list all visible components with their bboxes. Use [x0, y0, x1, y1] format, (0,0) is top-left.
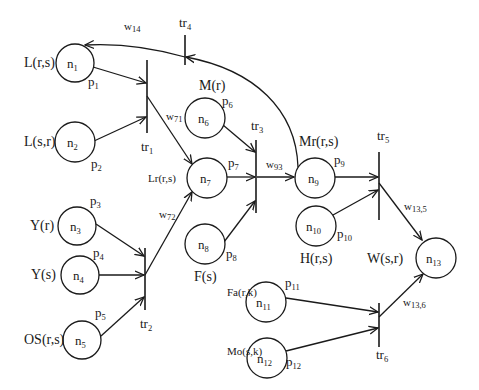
node-label-n8: F(s) — [194, 269, 217, 285]
arc-tr4-n1 — [85, 45, 185, 58]
place-label: p6 — [222, 93, 233, 110]
weight-label-w93: w93 — [266, 158, 282, 172]
node-label-n2: L(s,r) — [24, 134, 56, 150]
node-label-n3: Y(r) — [30, 218, 54, 234]
node-label-n4: Y(s) — [31, 267, 56, 283]
place-label: p2 — [91, 156, 102, 173]
arc-n11-tr6 — [286, 298, 378, 312]
transition-label-tr3: tr3 — [251, 118, 263, 135]
place-label: p5 — [95, 305, 106, 322]
weight-label-w13-6: w13,6 — [403, 296, 426, 310]
place-label: p11 — [285, 275, 300, 292]
node-label-n12: Mo(s,k) — [227, 345, 262, 358]
place-label: p4 — [93, 245, 105, 262]
node-label-n11: Fa(r,k) — [227, 286, 257, 299]
transition-label-tr2: tr2 — [140, 316, 152, 333]
petri-net-diagram: n1 n2 n3 n4 n5 n6 n7 n8 n9 n10 n11 n12 n… — [0, 0, 479, 390]
place-label: p10 — [337, 226, 352, 243]
node-label-n10: H(r,s) — [300, 251, 333, 267]
node-label-n9: Mr(r,s) — [299, 134, 339, 150]
node-label-n6: M(r) — [199, 78, 226, 94]
weight-label-w71: w71 — [166, 110, 182, 124]
arc-tr1-n7 — [147, 96, 192, 164]
place-label: p8 — [226, 246, 237, 263]
arc-n12-tr6 — [286, 328, 378, 351]
arc-tr2-n7 — [145, 192, 192, 275]
place-label: p12 — [286, 354, 301, 371]
node-label-n5: OS(r,s) — [24, 332, 65, 348]
transition-label-tr4: tr4 — [179, 15, 192, 32]
place-label: p3 — [90, 193, 101, 210]
transition-label-tr1: tr1 — [141, 139, 153, 156]
arc-n8-tr3 — [224, 201, 255, 242]
place-label: p9 — [334, 152, 345, 169]
arc-n10-tr5 — [333, 190, 378, 215]
weight-label-w14: w14 — [124, 20, 141, 34]
weight-label-w72: w72 — [159, 208, 175, 222]
place-label: p1 — [88, 74, 99, 91]
weight-label-w13-5: w13,5 — [404, 200, 427, 214]
transition-label-tr5: tr5 — [377, 128, 389, 145]
node-label-n1: L(r,s) — [24, 55, 55, 71]
arc-n1-tr1 — [93, 67, 146, 83]
node-label-n7: Lr(r,s) — [148, 172, 176, 185]
arc-n2-tr1 — [94, 117, 146, 141]
arc-tr6-n13 — [379, 274, 423, 317]
transition-label-tr6: tr6 — [376, 347, 388, 364]
node-ids: n1 n2 n3 n4 n5 n6 n7 n8 n9 n10 n11 n12 n… — [67, 56, 441, 368]
node-label-n13: W(s,r) — [367, 251, 403, 267]
arc-n5-tr2 — [101, 297, 144, 336]
weight-labels: w14 w71 w72 w93 w13,5 w13,6 — [124, 20, 427, 310]
place-label: p7 — [228, 155, 239, 172]
